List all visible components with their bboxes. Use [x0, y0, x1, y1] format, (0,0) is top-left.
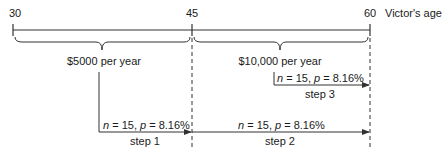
tick-label-30: 30	[9, 8, 21, 19]
step-3-params: n = 15, p = 8.16%	[277, 73, 364, 84]
brace-5000	[15, 37, 190, 50]
step-2-label: step 2	[265, 136, 295, 147]
step-3-label: step 3	[305, 89, 335, 100]
brace-10000	[194, 37, 368, 50]
step-1-label: step 1	[130, 136, 160, 147]
step-1-params: n = 15, p = 8.16%	[103, 120, 190, 131]
brace-label-5000: $5000 per year	[67, 56, 141, 67]
axis-label: Victor's age	[385, 8, 442, 19]
step-2-params: n = 15, p = 8.16%	[238, 120, 325, 131]
timeline-diagram	[0, 0, 448, 152]
brace-label-10000: $10,000 per year	[238, 56, 321, 67]
tick-label-60: 60	[364, 8, 376, 19]
tick-label-45: 45	[186, 8, 198, 19]
